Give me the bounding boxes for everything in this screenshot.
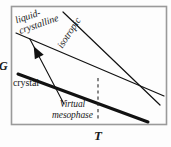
annotation-label-virtual-mesophase-line2: mesophase: [52, 111, 93, 121]
curve-label-crystal: crystal: [13, 78, 39, 88]
phase-diagram-figure: liquid- crystalline isotropic crystal Vi…: [0, 0, 171, 147]
x-axis-label: T: [94, 129, 102, 142]
annotation-label-virtual-mesophase-line1: Virtual: [60, 99, 86, 109]
annotation-label-virtual-mesophase: Virtual mesophase: [52, 100, 93, 120]
y-axis-label: G: [0, 60, 8, 72]
